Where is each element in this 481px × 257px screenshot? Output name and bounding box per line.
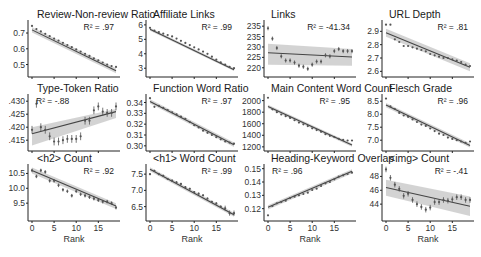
svg-text:235: 235: [247, 32, 261, 42]
svg-text:44: 44: [370, 199, 380, 209]
svg-text:.430: .430: [8, 96, 25, 106]
scatter-plot: 12001400160018002000R² = .95: [236, 80, 356, 152]
svg-text:10: 10: [307, 223, 317, 233]
svg-text:8.5: 8.5: [367, 96, 379, 106]
chart-panel-type-token-ratio: Type-Token Ratio.415.420.425.430R² = -.8…: [0, 80, 120, 152]
chart-panel-main-content-word-count: Main Content Word Count12001400160018002…: [236, 80, 356, 152]
svg-text:2.8: 2.8: [367, 40, 379, 50]
svg-text:15: 15: [330, 223, 340, 233]
chart-panel-links: Links220225230235235R² = -41.34: [236, 6, 356, 78]
scatter-plot: 6.57.07.5051015RankR² = .99: [118, 150, 238, 250]
svg-text:R² = -41.34: R² = -41.34: [307, 22, 350, 32]
svg-text:.415: .415: [8, 135, 25, 145]
scatter-plot: 220225230235235R² = -41.34: [236, 6, 356, 78]
svg-text:10.0: 10.0: [8, 183, 25, 193]
svg-text:0.34: 0.34: [126, 98, 143, 108]
svg-text:0.13: 0.13: [244, 190, 261, 200]
svg-text:5: 5: [170, 223, 175, 233]
svg-text:0.7: 0.7: [13, 28, 25, 38]
svg-text:0: 0: [384, 223, 389, 233]
svg-text:.420: .420: [8, 122, 25, 132]
svg-text:.425: .425: [8, 109, 25, 119]
svg-text:10: 10: [189, 223, 199, 233]
svg-text:0: 0: [30, 223, 35, 233]
chart-panel-flesch-grade: Flesch Grade7.07.58.08.5R² = .96: [354, 80, 474, 152]
scatter-plot: .415.420.425.430R² = -.88: [0, 80, 120, 152]
svg-text:1800: 1800: [242, 107, 261, 117]
chart-panel-h1-word-count: <h1> Word Count6.57.07.5051015RankR² = .…: [118, 150, 238, 250]
svg-text:15: 15: [212, 223, 222, 233]
svg-text:R² = .92: R² = .92: [84, 166, 115, 176]
chart-panel-review-non-review-ratio: Review-Non-review Ratio0.50.60.7R² = .97: [0, 6, 120, 78]
svg-text:6: 6: [138, 20, 143, 30]
chart-panel-img-count: <img> Count444648051015RankR² = -.41: [354, 150, 474, 250]
svg-text:9.5: 9.5: [13, 198, 25, 208]
svg-text:10: 10: [425, 223, 435, 233]
svg-text:235: 235: [247, 21, 261, 31]
svg-text:0.15: 0.15: [244, 164, 261, 174]
svg-text:0.33: 0.33: [126, 108, 143, 118]
svg-text:R² = -.88: R² = -.88: [36, 96, 70, 106]
svg-text:R² = .96: R² = .96: [272, 166, 303, 176]
svg-text:225: 225: [247, 52, 261, 62]
scatter-plot: 444648051015RankR² = -.41: [354, 150, 474, 250]
svg-text:15: 15: [448, 223, 458, 233]
svg-text:1600: 1600: [242, 119, 261, 129]
svg-text:0: 0: [266, 223, 271, 233]
scatter-plot: 3456R² = .99: [118, 6, 238, 78]
scatter-plot: 7.07.58.08.5R² = .96: [354, 80, 474, 152]
svg-text:R² = -.41: R² = -.41: [435, 166, 469, 176]
svg-text:0.31: 0.31: [126, 130, 143, 140]
chart-panel-heading-keyword-overlap: Heading-Keyword Overlap0.120.130.140.150…: [236, 150, 356, 250]
svg-text:220: 220: [247, 63, 261, 73]
svg-text:3: 3: [138, 63, 143, 73]
chart-panel-function-word-ratio: Function Word Ratio0.300.310.320.330.34R…: [118, 80, 238, 152]
scatter-plot: 9.510.010.5051015RankR² = .92: [0, 150, 120, 250]
chart-panel-h2-count: <h2> Count9.510.010.5051015RankR² = .92: [0, 150, 120, 250]
chart-grid: Review-Non-review Ratio0.50.60.7R² = .97…: [0, 0, 481, 257]
svg-text:R² = .99: R² = .99: [202, 22, 233, 32]
svg-text:1400: 1400: [242, 130, 261, 140]
svg-text:15: 15: [94, 223, 104, 233]
chart-panel-url-depth: URL Depth2.62.72.82.9R² = .81: [354, 6, 474, 78]
svg-text:48: 48: [370, 171, 380, 181]
svg-text:R² = .95: R² = .95: [320, 96, 351, 106]
svg-text:Rank: Rank: [63, 234, 85, 244]
svg-text:7.0: 7.0: [131, 185, 143, 195]
svg-text:R² = .81: R² = .81: [438, 22, 469, 32]
svg-text:R² = .99: R² = .99: [202, 166, 233, 176]
svg-text:230: 230: [247, 42, 261, 52]
svg-text:Rank: Rank: [181, 234, 203, 244]
svg-text:10: 10: [71, 223, 81, 233]
svg-text:7.5: 7.5: [131, 169, 143, 179]
scatter-plot: 2.62.72.82.9R² = .81: [354, 6, 474, 78]
svg-text:4: 4: [138, 49, 143, 59]
svg-text:0: 0: [148, 223, 153, 233]
svg-text:8.0: 8.0: [367, 109, 379, 119]
scatter-plot: 0.120.130.140.15051015RankR² = .96: [236, 150, 356, 250]
scatter-plot: 0.300.310.320.330.34R² = .97: [118, 80, 238, 152]
svg-text:5: 5: [52, 223, 57, 233]
svg-text:R² = .97: R² = .97: [202, 96, 233, 106]
svg-text:2.6: 2.6: [367, 66, 379, 76]
svg-text:0.6: 0.6: [13, 44, 25, 54]
svg-text:5: 5: [138, 34, 143, 44]
svg-text:7.0: 7.0: [367, 135, 379, 145]
svg-text:0.32: 0.32: [126, 119, 143, 129]
svg-text:0.12: 0.12: [244, 204, 261, 214]
svg-text:2000: 2000: [242, 96, 261, 106]
svg-text:10.5: 10.5: [8, 168, 25, 178]
svg-text:0.5: 0.5: [13, 60, 25, 70]
svg-text:5: 5: [288, 223, 293, 233]
svg-text:R² = .97: R² = .97: [84, 22, 115, 32]
svg-text:0.14: 0.14: [244, 177, 261, 187]
svg-text:Rank: Rank: [299, 234, 321, 244]
svg-text:Rank: Rank: [417, 234, 439, 244]
svg-text:6.5: 6.5: [131, 202, 143, 212]
chart-panel-affiliate-links: Affiliate Links3456R² = .99: [118, 6, 238, 78]
svg-text:R² = .96: R² = .96: [438, 96, 469, 106]
svg-text:2.7: 2.7: [367, 53, 379, 63]
svg-text:46: 46: [370, 185, 380, 195]
scatter-plot: 0.50.60.7R² = .97: [0, 6, 120, 78]
svg-text:7.5: 7.5: [367, 122, 379, 132]
